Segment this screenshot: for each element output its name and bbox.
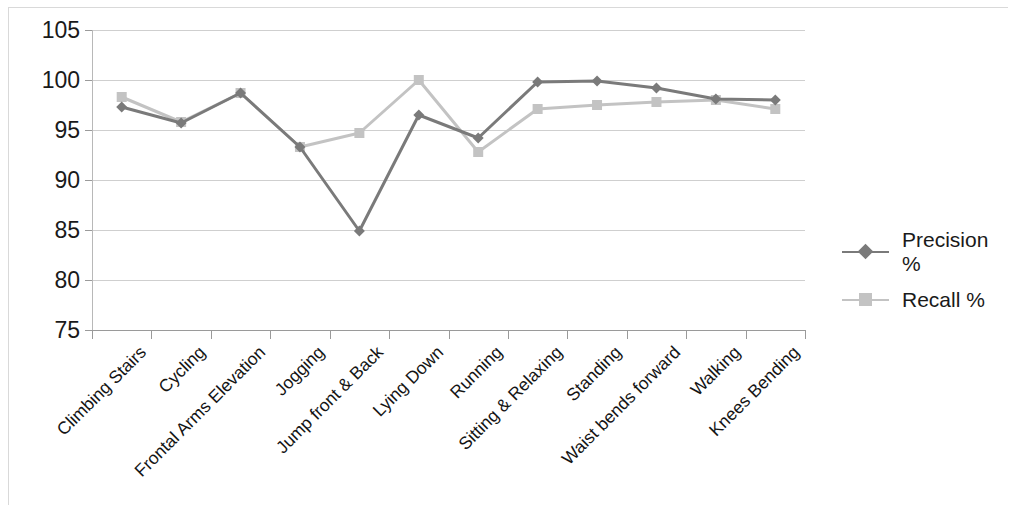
legend-swatch — [842, 293, 889, 307]
data-point-marker — [354, 128, 364, 138]
x-axis-tick — [92, 330, 93, 339]
x-axis-tick — [686, 330, 687, 339]
y-axis-tick-label: 75 — [54, 317, 80, 344]
legend-diamond-marker-icon — [858, 244, 874, 260]
data-point-marker — [116, 102, 127, 113]
x-axis-tick — [151, 330, 152, 339]
y-axis-tick-label: 100 — [42, 67, 80, 94]
data-point-marker — [533, 104, 543, 114]
y-axis-tick — [85, 330, 92, 331]
y-axis-tick — [85, 30, 92, 31]
legend-item[interactable]: Precision % — [842, 228, 1007, 276]
data-point-marker — [592, 100, 602, 110]
x-axis-tick — [508, 330, 509, 339]
plot-area: 7580859095100105 — [92, 30, 805, 330]
data-point-marker — [413, 110, 424, 121]
y-axis-tick-label: 85 — [54, 217, 80, 244]
x-axis-category-label: Sitting & Relaxing — [454, 342, 567, 455]
y-axis-tick-label: 80 — [54, 267, 80, 294]
data-point-marker — [592, 76, 603, 87]
legend-square-marker-icon — [859, 293, 872, 306]
frame-top-border — [8, 7, 1008, 8]
x-axis-tick — [449, 330, 450, 339]
x-axis-tick — [746, 330, 747, 339]
data-point-marker — [651, 83, 662, 94]
x-axis-tick — [567, 330, 568, 339]
x-axis-category-label: Jump front & Back — [272, 342, 388, 458]
x-axis-tick — [627, 330, 628, 339]
series-layer — [92, 30, 805, 330]
x-axis-category-label: Cycling — [155, 342, 210, 397]
series-line — [122, 81, 776, 231]
frame-left-border — [8, 7, 9, 505]
x-axis-category-label: Walking — [686, 342, 744, 400]
y-axis-tick — [85, 80, 92, 81]
x-axis-category-label: Waist bends forward — [558, 342, 685, 469]
data-point-marker — [473, 147, 483, 157]
y-axis-tick — [85, 180, 92, 181]
legend-item[interactable]: Recall % — [842, 276, 1007, 324]
y-axis-tick — [85, 280, 92, 281]
chart-screenshot: 7580859095100105 Climbing StairsCyclingF… — [0, 0, 1011, 529]
y-axis-tick — [85, 130, 92, 131]
y-axis-tick — [85, 230, 92, 231]
data-point-marker — [651, 97, 661, 107]
data-point-marker — [414, 75, 424, 85]
y-axis-tick-label: 105 — [42, 17, 80, 44]
x-axis-category-label: Climbing Stairs — [52, 342, 150, 440]
y-axis-tick-label: 95 — [54, 117, 80, 144]
data-point-marker — [770, 95, 781, 106]
x-axis-tick — [805, 330, 806, 339]
legend-swatch — [842, 245, 889, 259]
y-axis-tick-label: 90 — [54, 167, 80, 194]
data-point-marker — [117, 92, 127, 102]
x-axis-tick — [389, 330, 390, 339]
legend-label: Recall % — [902, 288, 985, 312]
x-axis-category-label: Running — [446, 342, 507, 403]
x-axis-tick — [211, 330, 212, 339]
x-axis-tick — [330, 330, 331, 339]
x-axis-tick — [270, 330, 271, 339]
x-axis-category-label: Jogging — [271, 342, 329, 400]
chart-legend: Precision %Recall % — [842, 228, 1007, 324]
legend-label: Precision % — [902, 228, 1007, 276]
